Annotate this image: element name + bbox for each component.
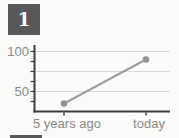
line-chart: 100505 years agotoday [0, 0, 179, 138]
data-point [61, 100, 68, 107]
y-tick-label: 50 [15, 84, 29, 99]
y-tick-label: 100 [7, 44, 29, 59]
next-step-badge-partial [10, 135, 42, 138]
data-line [64, 60, 146, 104]
infographic-panel: 1 100505 years agotoday [0, 0, 179, 138]
x-tick-label: 5 years ago [33, 116, 101, 131]
data-point [143, 56, 150, 63]
x-tick-label: today [133, 116, 165, 131]
